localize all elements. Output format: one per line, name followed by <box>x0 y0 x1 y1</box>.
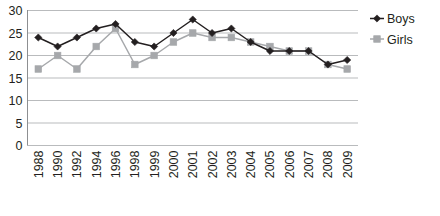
y-tick-label: 25 <box>9 27 23 41</box>
data-point-marker <box>170 39 177 46</box>
data-point-marker <box>228 34 235 41</box>
y-tick-label: 10 <box>9 94 23 108</box>
x-tick-label: 1992 <box>70 150 84 178</box>
data-point-marker <box>73 34 80 41</box>
y-tick-label: 15 <box>9 72 23 86</box>
data-point-marker <box>35 66 42 73</box>
y-tick-label: 20 <box>9 49 23 63</box>
y-tick-labels: 051015202530 <box>9 4 23 153</box>
x-tick-label: 2001 <box>186 150 200 178</box>
x-tick-label: 2007 <box>302 150 316 178</box>
x-tick-label: 2002 <box>206 150 220 178</box>
data-point-marker <box>93 43 100 50</box>
x-tick-label: 2008 <box>321 150 335 178</box>
legend-marker-girls <box>374 36 381 43</box>
data-point-marker <box>132 61 139 68</box>
x-tick-label: 1999 <box>148 150 162 178</box>
data-point-marker <box>344 56 351 63</box>
data-point-marker <box>54 52 61 59</box>
data-point-marker <box>344 66 351 73</box>
data-point-marker <box>54 43 61 50</box>
x-tick-label: 1998 <box>128 150 142 178</box>
chart-canvas: 051015202530 198819901992199419961998199… <box>0 0 440 216</box>
x-tick-label: 1988 <box>32 150 46 178</box>
data-point-marker <box>74 66 81 73</box>
chart-legend: BoysGirls <box>370 12 415 47</box>
data-point-marker <box>93 25 100 32</box>
x-tick-label: 2006 <box>283 150 297 178</box>
legend-label-girls: Girls <box>387 33 413 47</box>
x-tick-labels: 1988199019921994199619981999200020012002… <box>32 150 355 178</box>
x-tick-label: 2003 <box>225 150 239 178</box>
x-tick-label: 2004 <box>244 150 258 178</box>
data-point-marker <box>151 52 158 59</box>
y-tick-label: 5 <box>16 117 23 131</box>
series-girls <box>35 25 350 72</box>
x-tick-label: 2005 <box>263 150 277 178</box>
x-tick-label: 2000 <box>167 150 181 178</box>
data-point-marker <box>35 34 42 41</box>
x-tick-label: 1990 <box>51 150 65 178</box>
x-tick-label: 1994 <box>90 150 104 178</box>
x-tick-label: 2009 <box>341 150 355 178</box>
series-boys <box>35 16 351 68</box>
series-line <box>38 20 347 65</box>
y-tick-label: 30 <box>9 4 23 18</box>
x-tick-label: 1996 <box>109 150 123 178</box>
legend-label-boys: Boys <box>387 12 415 26</box>
data-point-marker <box>189 30 196 37</box>
y-tick-label: 0 <box>16 139 23 153</box>
legend-marker-boys <box>373 15 380 22</box>
line-chart: 051015202530 198819901992199419961998199… <box>0 0 440 216</box>
